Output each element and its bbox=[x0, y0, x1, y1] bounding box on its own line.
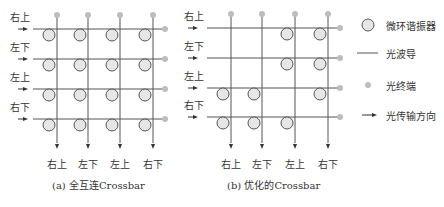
arrow-icon bbox=[372, 113, 377, 117]
microring-icon bbox=[106, 29, 118, 41]
panel-caption: (b) 优化的Crossbar bbox=[227, 177, 320, 192]
input-port-label: 右上 bbox=[10, 9, 30, 24]
microring-icon bbox=[281, 58, 293, 70]
microring-icon bbox=[314, 58, 326, 70]
output-port-label: 左下 bbox=[252, 156, 272, 171]
input-port-label: 左下 bbox=[10, 39, 30, 54]
terminal-icon bbox=[325, 11, 331, 17]
microring-icon bbox=[43, 59, 55, 71]
terminal-icon bbox=[162, 116, 168, 122]
microring-icon bbox=[106, 59, 118, 71]
output-port-label: 左上 bbox=[285, 156, 305, 171]
terminal-icon bbox=[117, 12, 123, 18]
output-port-label: 左上 bbox=[110, 156, 130, 171]
terminal-icon bbox=[337, 114, 343, 120]
arrow-right-icon bbox=[193, 26, 198, 30]
microring-icon bbox=[139, 89, 151, 101]
arrow-down-icon bbox=[229, 144, 233, 149]
terminal-icon bbox=[162, 26, 168, 32]
microring-icon bbox=[106, 119, 118, 131]
microring-icon bbox=[139, 59, 151, 71]
output-port-label: 右上 bbox=[221, 156, 241, 171]
terminal-icon bbox=[337, 25, 343, 31]
microring-icon bbox=[106, 89, 118, 101]
legend-label: 光传输方向 bbox=[386, 108, 436, 123]
microring-icon bbox=[217, 88, 229, 100]
crossbar-diagram bbox=[0, 0, 444, 207]
input-port-label: 左上 bbox=[184, 68, 204, 83]
terminal-icon bbox=[292, 11, 298, 17]
microring-icon bbox=[43, 29, 55, 41]
input-port-label: 左下 bbox=[184, 38, 204, 53]
arrow-down-icon bbox=[326, 144, 330, 149]
microring-icon bbox=[217, 117, 229, 129]
arrow-down-icon bbox=[86, 144, 90, 149]
arrow-right-icon bbox=[23, 87, 28, 91]
microring-icon bbox=[74, 119, 86, 131]
terminal-icon bbox=[162, 56, 168, 62]
output-port-label: 左下 bbox=[78, 156, 98, 171]
legend-label: 微环谐振器 bbox=[386, 18, 436, 33]
terminal-icon bbox=[54, 12, 60, 18]
microring-icon bbox=[74, 59, 86, 71]
terminal-icon bbox=[337, 55, 343, 61]
microring-icon bbox=[139, 29, 151, 41]
arrow-down-icon bbox=[55, 144, 59, 149]
legend-label: 光波导 bbox=[386, 46, 416, 61]
arrow-right-icon bbox=[23, 117, 28, 121]
output-port-label: 右上 bbox=[47, 156, 67, 171]
arrow-down-icon bbox=[293, 144, 297, 149]
terminal-icon bbox=[150, 12, 156, 18]
arrow-right-icon bbox=[193, 115, 198, 119]
microring-icon bbox=[74, 89, 86, 101]
arrow-down-icon bbox=[118, 144, 122, 149]
arrow-down-icon bbox=[260, 144, 264, 149]
arrow-right-icon bbox=[23, 57, 28, 61]
terminal-icon bbox=[337, 85, 343, 91]
terminal-icon bbox=[162, 86, 168, 92]
microring-icon bbox=[314, 28, 326, 40]
microring-icon bbox=[43, 119, 55, 131]
microring-icon bbox=[362, 19, 374, 31]
input-port-label: 右下 bbox=[10, 99, 30, 114]
legend-label: 光终端 bbox=[386, 78, 416, 93]
microring-icon bbox=[139, 119, 151, 131]
microring-icon bbox=[74, 29, 86, 41]
arrow-right-icon bbox=[193, 56, 198, 60]
arrow-right-icon bbox=[193, 86, 198, 90]
microring-icon bbox=[248, 117, 260, 129]
output-port-label: 右下 bbox=[143, 156, 163, 171]
microring-icon bbox=[248, 88, 260, 100]
input-port-label: 右下 bbox=[184, 97, 204, 112]
microring-icon bbox=[314, 88, 326, 100]
terminal-icon bbox=[365, 82, 371, 88]
panel-caption: (a) 全互连Crossbar bbox=[52, 177, 145, 192]
terminal-icon bbox=[259, 11, 265, 17]
arrow-right-icon bbox=[23, 27, 28, 31]
microring-icon bbox=[281, 117, 293, 129]
output-port-label: 右下 bbox=[318, 156, 338, 171]
input-port-label: 左上 bbox=[10, 69, 30, 84]
terminal-icon bbox=[85, 12, 91, 18]
terminal-icon bbox=[228, 11, 234, 17]
microring-icon bbox=[43, 89, 55, 101]
input-port-label: 右上 bbox=[184, 8, 204, 23]
microring-icon bbox=[281, 28, 293, 40]
arrow-down-icon bbox=[151, 144, 155, 149]
